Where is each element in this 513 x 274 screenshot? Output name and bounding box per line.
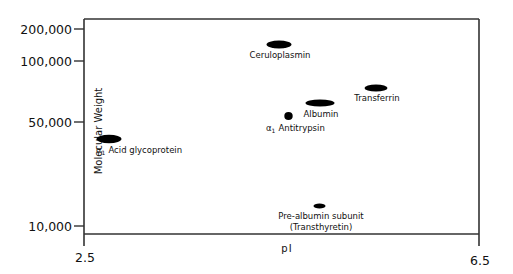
x-axis-title: pI: [281, 243, 292, 254]
y-axis-title: Molecular Weight: [93, 88, 104, 175]
y-tick-50000: 50,000: [28, 115, 72, 130]
y-tick-10000: 10,000: [28, 219, 72, 234]
label-transthyretin: (Transthyretin): [290, 222, 352, 232]
point-acid-glycoprotein: [97, 135, 122, 143]
x-tick-2-5: 2.5: [75, 250, 95, 265]
y-ticks: [74, 29, 84, 226]
label-transferrin: Transferrin: [353, 93, 399, 103]
label-antitrypsin: α1Antitrypsin: [266, 123, 325, 134]
point-antitrypsin: [284, 112, 292, 120]
point-prealbumin: [314, 203, 326, 208]
label-ceruloplasmin: Ceruloplasmin: [249, 50, 310, 60]
data-points: [97, 41, 388, 209]
point-albumin: [306, 99, 335, 106]
y-tick-100000: 100,000: [20, 54, 72, 69]
chart: 200,000 100,000 50,000 10,000 2.5 6.5 pI…: [0, 0, 513, 274]
label-acid-glycoprotein: α1Acid glycoprotein: [96, 145, 182, 156]
point-ceruloplasmin: [267, 41, 292, 49]
label-albumin: Albumin: [304, 109, 339, 119]
x-tick-6-5: 6.5: [470, 253, 490, 268]
label-prealbumin: Pre-albumin subunit: [278, 211, 364, 221]
point-transferrin: [365, 84, 388, 91]
y-tick-200000: 200,000: [20, 22, 72, 37]
